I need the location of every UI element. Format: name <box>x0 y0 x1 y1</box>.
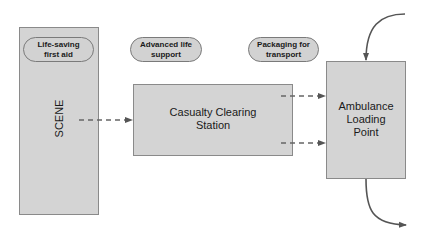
phase-label: Packaging for transport <box>257 40 310 60</box>
ambulance-loading-point-label: Ambulance Loading Point <box>326 100 406 139</box>
curved-arrow-outgoing <box>366 179 406 225</box>
phase-life-saving-first-aid: Life-saving first aid <box>23 37 94 62</box>
phase-label: Life-saving first aid <box>37 40 79 60</box>
scene-label: SCENE <box>53 94 66 144</box>
phase-label: Advanced life support <box>140 40 192 60</box>
casualty-clearing-station-label: Casualty Clearing Station <box>133 106 293 132</box>
curved-arrow-incoming <box>366 14 405 60</box>
phase-packaging-for-transport: Packaging for transport <box>248 37 319 62</box>
phase-advanced-life-support: Advanced life support <box>130 37 202 62</box>
